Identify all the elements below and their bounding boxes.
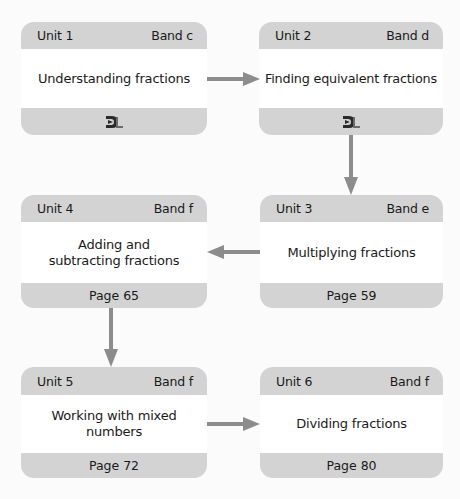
arrow-down-icon	[344, 135, 358, 195]
arrow-right-icon	[207, 72, 260, 86]
card-header: Unit 3 Band e	[260, 195, 443, 222]
band-label: Band c	[151, 28, 193, 43]
unit-label: Unit 3	[276, 201, 312, 216]
arrow-left-icon	[207, 245, 260, 259]
card-header: Unit 4 Band f	[21, 195, 207, 222]
arrow-right-icon	[207, 417, 260, 431]
band-label: Band f	[154, 201, 193, 216]
unit-label: Unit 5	[37, 374, 73, 389]
unit-1-card: Unit 1 Band c Understanding fractions	[21, 22, 207, 135]
arrow-down-icon	[104, 308, 118, 367]
unit-label: Unit 2	[275, 28, 311, 43]
band-label: Band f	[390, 374, 429, 389]
page-reference: Page 72	[21, 453, 207, 478]
card-header: Unit 1 Band c	[21, 22, 207, 49]
unit-label: Unit 4	[37, 201, 73, 216]
card-header: Unit 5 Band f	[21, 367, 207, 395]
unit-label: Unit 6	[276, 374, 312, 389]
band-label: Band f	[154, 374, 193, 389]
card-footer	[259, 108, 443, 135]
unit-label: Unit 1	[37, 28, 73, 43]
card-header: Unit 6 Band f	[260, 367, 443, 395]
unit-title: Understanding fractions	[21, 49, 207, 108]
page-reference: Page 80	[260, 453, 443, 478]
card-header: Unit 2 Band d	[259, 22, 443, 49]
band-label: Band e	[386, 201, 429, 216]
card-footer	[21, 108, 207, 135]
unit-title: Dividing fractions	[260, 395, 443, 453]
dl-logo-icon	[104, 115, 124, 129]
unit-3-card: Unit 3 Band e Multiplying fractions Page…	[260, 195, 443, 308]
unit-title: Adding and subtracting fractions	[21, 222, 207, 283]
unit-2-card: Unit 2 Band d Finding equivalent fractio…	[259, 22, 443, 135]
unit-6-card: Unit 6 Band f Dividing fractions Page 80	[260, 367, 443, 478]
unit-4-card: Unit 4 Band f Adding and subtracting fra…	[21, 195, 207, 308]
unit-title: Multiplying fractions	[260, 222, 443, 283]
page-reference: Page 59	[260, 283, 443, 308]
unit-5-card: Unit 5 Band f Working with mixed numbers…	[21, 367, 207, 478]
unit-title: Working with mixed numbers	[21, 395, 207, 453]
dl-logo-icon	[341, 115, 361, 129]
page-reference: Page 65	[21, 283, 207, 308]
band-label: Band d	[386, 28, 429, 43]
unit-title: Finding equivalent fractions	[259, 49, 443, 108]
